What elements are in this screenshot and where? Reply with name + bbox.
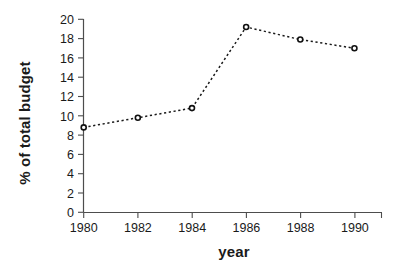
x-axis-title: year [84,243,384,260]
data-point [135,115,140,120]
data-point [81,125,86,130]
x-tick-label: 1982 [124,221,152,235]
y-axis-tick-labels: 20 18 16 14 12 10 8 6 4 2 0 [60,13,74,220]
y-tick-label: 0 [67,206,74,220]
y-tick-label: 2 [67,187,74,201]
x-tick-label: 1980 [70,221,98,235]
y-tick-label: 14 [60,71,74,85]
data-point [244,25,249,30]
chart-figure: % of total budget 20 18 16 14 12 10 [0,0,406,278]
y-axis-ticks [78,19,84,212]
data-point [189,106,194,111]
x-tick-label: 1984 [178,221,206,235]
y-tick-label: 18 [60,32,74,46]
x-axis-ticks [84,213,382,219]
series-markers [81,25,357,130]
x-tick-label: 1990 [341,221,369,235]
y-tick-label: 20 [60,13,74,27]
x-axis-tick-labels: 1980 1982 1984 1986 1988 1990 [70,221,369,235]
y-tick-label: 10 [60,110,74,124]
y-tick-label: 6 [67,148,74,162]
y-tick-label: 12 [60,90,74,104]
x-tick-label: 1986 [232,221,260,235]
data-point [352,46,357,51]
y-tick-label: 16 [60,52,74,66]
data-point [298,37,303,42]
y-tick-label: 8 [67,129,74,143]
x-tick-label: 1988 [287,221,315,235]
y-tick-label: 4 [67,167,74,181]
plot-area: 20 18 16 14 12 10 8 6 4 2 0 1980 1982 19… [0,0,406,278]
series-line [84,27,355,127]
